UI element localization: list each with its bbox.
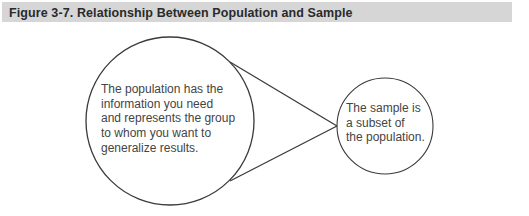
sample-description: The sample is a subset of the population… [346,101,425,145]
population-line: The population has the [101,82,235,97]
population-line: information you need [101,97,235,112]
population-line: and represents the group [101,111,235,126]
upper-connector-line [230,62,337,126]
population-line: to whom you want to [101,126,235,141]
sample-line: a subset of [346,116,425,131]
sample-line: The sample is [346,101,425,116]
sample-line: the population. [346,130,425,145]
lower-connector-line [230,126,337,181]
population-line: generalize results. [101,141,235,156]
population-description: The population has the information you n… [101,82,235,156]
population-sample-diagram [0,0,529,216]
